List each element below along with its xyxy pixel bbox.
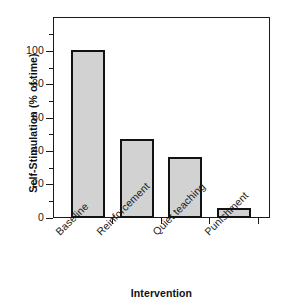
x-tick-3 xyxy=(258,218,259,224)
y-tick-major-60 xyxy=(46,118,53,119)
y-tick-minor-10 xyxy=(49,201,53,202)
y-axis-title: Self-Stimulation (% of time) xyxy=(27,38,39,208)
y-tick-label-0: 0 xyxy=(38,211,44,223)
x-axis-title: Intervention xyxy=(53,287,270,299)
y-tick-major-40 xyxy=(46,151,53,152)
y-tick-minor-90 xyxy=(49,68,53,69)
bars-layer xyxy=(53,17,270,218)
y-tick-minor-70 xyxy=(49,101,53,102)
y-tick-minor-110 xyxy=(49,34,53,35)
y-tick-minor-50 xyxy=(49,134,53,135)
y-tick-major-80 xyxy=(46,84,53,85)
y-tick-major-100 xyxy=(46,51,53,52)
y-tick-minor-30 xyxy=(49,168,53,169)
bar-chart-figure: 0 20 40 60 80 100 Baseline Reinforcement… xyxy=(0,0,289,307)
y-tick-major-20 xyxy=(46,184,53,185)
y-tick-major-0 xyxy=(46,218,53,219)
bar-baseline xyxy=(71,50,105,218)
